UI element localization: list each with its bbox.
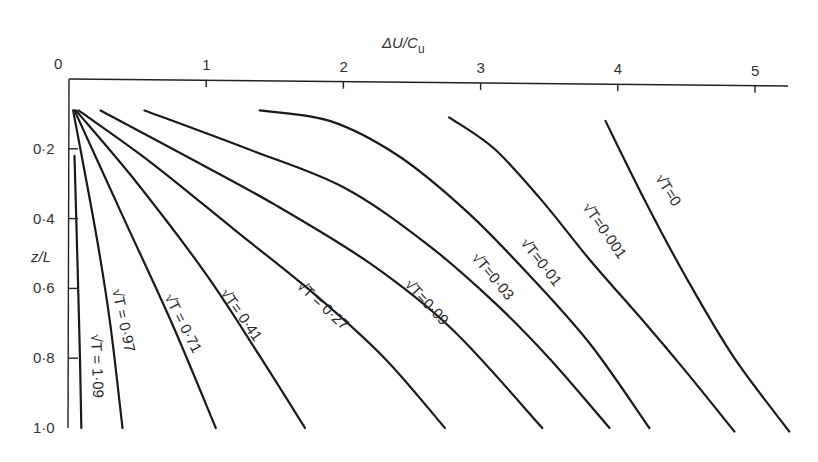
x-tick-label: 1 — [202, 56, 210, 73]
x-axis-line — [69, 79, 788, 86]
curve-series-9 — [74, 156, 81, 428]
y-tick-label: 0·8 — [33, 349, 55, 366]
y-tick-label: 0·4 — [33, 210, 55, 227]
x-tick-label: 4 — [614, 60, 622, 77]
x-tick-label: 0 — [54, 55, 62, 72]
x-tick-label: 3 — [477, 59, 485, 76]
chart: 012345 0·20·40·60·81·0 ΔU/Cu z/L √T=0 √T… — [0, 0, 818, 462]
curve-series-2 — [260, 110, 650, 428]
curve-label-0001: √T=0·001 — [580, 199, 631, 262]
curve-label-027: √T = 0·27 — [294, 277, 353, 333]
y-tick-label: 0·6 — [33, 279, 55, 296]
x-tick-label: 2 — [339, 58, 347, 75]
curve-label-003: √T=0·03 — [469, 249, 518, 303]
curve-series-5 — [79, 110, 445, 428]
curves — [73, 110, 789, 431]
curve-series-4 — [101, 110, 543, 428]
x-axis-title: ΔU/Cu — [381, 34, 425, 56]
curve-label-071: √T = 0·71 — [161, 291, 205, 356]
curve-label-001: √T=0·01 — [518, 234, 566, 289]
y-tick-label: 0·2 — [33, 140, 55, 157]
x-axis-title-sub: u — [418, 42, 425, 56]
y-ticks: 0·20·40·60·81·0 — [33, 140, 78, 436]
y-axis-title: z/L — [30, 248, 51, 265]
x-tick-label: 5 — [751, 62, 759, 79]
x-axis-title-main: ΔU/C — [381, 34, 418, 51]
curve-label-009: √T=0·09 — [402, 275, 453, 328]
curve-labels: √T=0 √T=0·001 √T=0·01 √T=0·03 √T=0·09 √T… — [88, 171, 685, 399]
y-axis-line — [68, 79, 69, 428]
curve-label-109: √T = 1·09 — [88, 334, 107, 399]
y-tick-label: 1·0 — [33, 419, 55, 436]
x-ticks: 012345 — [54, 55, 759, 93]
curve-label-0: √T=0 — [652, 171, 685, 209]
curve-label-041: √T= 0·41 — [218, 285, 267, 344]
